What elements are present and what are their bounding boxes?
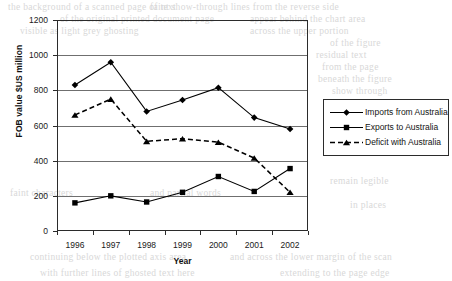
x-axis-tick-mark bbox=[93, 231, 94, 235]
chart-figure: the background of a scanned page of text… bbox=[0, 0, 452, 281]
legend-key-diamond-icon bbox=[328, 106, 365, 119]
x-axis-tick-label: 1998 bbox=[127, 240, 167, 250]
y-axis-tick-label: 1000 bbox=[14, 51, 48, 60]
legend-item-exports: Exports to Australia bbox=[328, 120, 444, 135]
scan-ghost-line: from the page bbox=[322, 62, 379, 72]
plot-area bbox=[57, 20, 308, 231]
y-axis-tick-label: 800 bbox=[14, 86, 48, 95]
y-axis-tick-label: 200 bbox=[14, 192, 48, 201]
x-axis-tick-label: 2002 bbox=[270, 240, 310, 250]
scan-ghost-line: extending to the page edge bbox=[280, 268, 390, 278]
gridline bbox=[58, 196, 307, 197]
y-axis-tick-label: 400 bbox=[14, 157, 48, 166]
x-axis-tick-label: 1999 bbox=[163, 240, 203, 250]
x-axis-tick-mark bbox=[308, 231, 309, 235]
scan-ghost-line: of the figure bbox=[330, 38, 381, 48]
x-axis-tick-label: 1996 bbox=[55, 240, 95, 250]
y-axis-tick-label: 1200 bbox=[14, 16, 48, 25]
gridline bbox=[58, 55, 307, 56]
legend-label: Imports from Australia bbox=[365, 108, 448, 117]
x-axis-tick-mark bbox=[272, 231, 273, 235]
chart-legend: Imports from Australia Exports to Austra… bbox=[323, 99, 449, 156]
x-axis-tick-mark bbox=[129, 231, 130, 235]
x-axis-tick-mark bbox=[165, 231, 166, 235]
gridline bbox=[58, 126, 307, 127]
legend-label: Exports to Australia bbox=[365, 123, 438, 132]
scan-ghost-line: in places bbox=[350, 200, 386, 210]
x-axis-tick-mark bbox=[57, 231, 58, 235]
x-axis-tick-label: 1997 bbox=[91, 240, 131, 250]
legend-item-imports: Imports from Australia bbox=[328, 105, 444, 120]
scan-ghost-line: with further lines of ghosted text here bbox=[40, 268, 195, 278]
scan-ghost-line: show through bbox=[332, 86, 388, 96]
scan-ghost-line: faint show-through lines from the revers… bbox=[150, 2, 339, 12]
scan-ghost-line: remain legible bbox=[330, 176, 389, 186]
x-axis-tick-label: 2001 bbox=[234, 240, 274, 250]
gridline bbox=[58, 90, 307, 91]
legend-key-square-icon bbox=[328, 121, 365, 134]
legend-label: Deficit with Australia bbox=[365, 138, 441, 147]
y-axis-tick-label: 600 bbox=[14, 122, 48, 131]
x-axis-tick-mark bbox=[236, 231, 237, 235]
legend-item-deficit: Deficit with Australia bbox=[328, 135, 444, 150]
gridline bbox=[58, 161, 307, 162]
scan-ghost-line: beneath the figure bbox=[318, 74, 392, 84]
scan-ghost-line: residual text bbox=[316, 50, 367, 60]
data-point-marker bbox=[343, 109, 350, 116]
legend-key-triangle-icon bbox=[328, 136, 365, 149]
x-axis-tick-mark bbox=[200, 231, 201, 235]
y-axis-tick-label: 0 bbox=[14, 227, 48, 236]
data-point-marker bbox=[344, 125, 349, 130]
x-axis-title: Year bbox=[57, 256, 308, 266]
x-axis-tick-label: 2000 bbox=[198, 240, 238, 250]
